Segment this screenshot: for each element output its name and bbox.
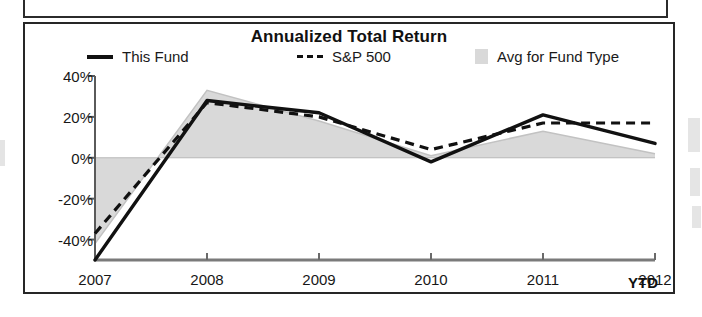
y-axis-tick-label: 20% bbox=[63, 108, 93, 125]
y-axis-tick-labels: 40%20%0%-20%-40% bbox=[31, 68, 93, 294]
dashed-line-swatch-icon bbox=[297, 55, 323, 58]
scan-artifact-right-2 bbox=[690, 168, 700, 196]
annualized-total-return-chart-panel: Annualized Total Return This Fund S&P 50… bbox=[23, 22, 675, 294]
legend-label-avg-for-fund-type: Avg for Fund Type bbox=[497, 48, 619, 65]
scan-artifact-right-3 bbox=[692, 206, 701, 228]
area-series-avg-for-fund-type bbox=[95, 90, 655, 243]
legend-item-sp500: S&P 500 bbox=[297, 48, 391, 65]
legend-label-sp500: S&P 500 bbox=[332, 48, 391, 65]
x-axis-ytd-note: YTD bbox=[628, 274, 658, 291]
y-axis-tick-label: -40% bbox=[58, 231, 93, 248]
legend-item-this-fund: This Fund bbox=[87, 48, 189, 65]
x-axis-tick-label: 2007 bbox=[78, 271, 111, 288]
area-series-outline-avg-for-fund-type bbox=[95, 90, 655, 243]
plot-area: 40%20%0%-20%-40% 20072008200920102011201… bbox=[25, 68, 673, 294]
x-axis-tick-label: 2009 bbox=[302, 271, 335, 288]
legend-label-this-fund: This Fund bbox=[122, 48, 189, 65]
legend-item-avg-for-fund-type: Avg for Fund Type bbox=[475, 48, 619, 65]
x-axis-tick-label: 2011 bbox=[527, 271, 559, 288]
y-axis-tick-label: 0% bbox=[71, 149, 93, 166]
y-axis-tick-label: -20% bbox=[58, 190, 93, 207]
x-axis-tick-label: 2010 bbox=[414, 271, 447, 288]
plot-svg bbox=[25, 68, 673, 294]
area-fill-swatch-icon bbox=[475, 49, 488, 64]
y-axis-tick-label: 40% bbox=[63, 68, 93, 85]
x-axis-tick-labels: 200720082009201020112012 bbox=[25, 271, 673, 291]
solid-line-swatch-icon bbox=[87, 55, 113, 59]
scan-artifact-left bbox=[0, 140, 5, 166]
chart-title: Annualized Total Return bbox=[25, 27, 673, 47]
scan-artifact-right-1 bbox=[688, 118, 700, 152]
x-axis-tick-label: 2008 bbox=[190, 271, 223, 288]
clipped-panel-above bbox=[23, 0, 668, 18]
